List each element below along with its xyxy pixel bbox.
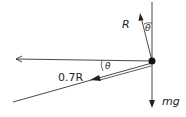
horizontal-line (16, 59, 152, 61)
friction-label-text: 0.7R (58, 71, 83, 84)
force-diagram: R θ 0.7R θ mg (0, 0, 186, 117)
theta-top-label: θ (145, 24, 151, 33)
reaction-label: R (122, 19, 130, 30)
reaction-arrowhead-icon (139, 13, 144, 21)
particle-dot (149, 58, 156, 65)
diagram-lines (0, 0, 186, 117)
weight-arrowhead-icon (149, 100, 155, 108)
friction-label: 0.7R (58, 72, 83, 83)
theta-arc-left (101, 60, 103, 71)
theta-left-label: θ (105, 62, 111, 71)
weight-label: mg (162, 96, 180, 107)
friction-arrowhead-icon (90, 75, 101, 81)
